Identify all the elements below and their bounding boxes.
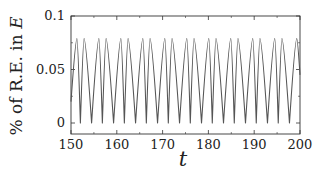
plot-border bbox=[71, 16, 300, 134]
x-tick-label: 160 bbox=[104, 137, 129, 152]
y-tick-label: 0.1 bbox=[44, 8, 65, 23]
line-chart: 150160170180190200 00.050.1 t % of R.E. … bbox=[0, 0, 326, 174]
x-tick-label: 200 bbox=[288, 137, 313, 152]
x-tick-label: 190 bbox=[242, 137, 267, 152]
x-axis-ticks: 150160170180190200 bbox=[59, 16, 313, 152]
y-axis-label-text: % of R.E. in bbox=[6, 29, 26, 136]
y-axis-label: % of R.E. in E bbox=[6, 16, 26, 136]
plot-frame bbox=[71, 16, 300, 134]
x-axis-label: t bbox=[179, 147, 188, 171]
y-tick-label: 0 bbox=[57, 115, 65, 130]
x-tick-label: 150 bbox=[59, 137, 84, 152]
x-tick-label: 170 bbox=[150, 137, 175, 152]
x-tick-label: 180 bbox=[196, 137, 221, 152]
y-tick-label: 0.05 bbox=[36, 62, 65, 77]
data-series-line bbox=[71, 38, 300, 123]
y-axis-label-italic: E bbox=[6, 16, 26, 30]
